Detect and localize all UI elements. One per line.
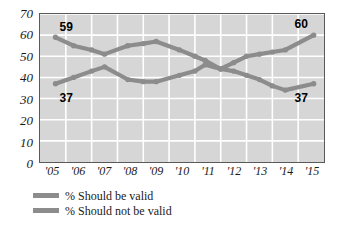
data-point <box>71 43 76 48</box>
series-line-0 <box>55 37 313 90</box>
data-point <box>231 68 236 73</box>
data-point <box>257 77 262 82</box>
y-tick-label: 40 <box>20 71 33 84</box>
x-tick-label: '07 <box>97 165 112 177</box>
data-point <box>177 73 182 78</box>
data-point <box>231 60 236 65</box>
y-tick-label: 60 <box>20 28 33 41</box>
value-label-end-valid: 60 <box>295 18 308 30</box>
y-tick-label: 70 <box>20 7 33 20</box>
x-tick-label: '09 <box>149 165 164 177</box>
value-label-start-valid: 37 <box>60 92 73 104</box>
data-point <box>257 52 262 57</box>
x-tick-label: '08 <box>123 165 138 177</box>
chart-figure: 010203040506070 59603737 '05'06'07'08'09… <box>0 0 340 234</box>
data-point <box>102 64 107 69</box>
x-tick-label: '12 <box>227 165 242 177</box>
x-tick-label: '06 <box>71 165 86 177</box>
data-point <box>89 47 94 52</box>
data-point <box>89 68 94 73</box>
data-point <box>71 75 76 80</box>
data-point <box>203 62 208 67</box>
x-tick-label: '05 <box>45 165 60 177</box>
data-point <box>177 47 182 52</box>
data-point <box>141 79 146 84</box>
data-point <box>270 49 275 54</box>
data-point <box>283 87 288 92</box>
data-point <box>102 52 107 57</box>
chart-legend: % Should be valid% Should not be valid <box>33 188 172 218</box>
value-label-end-not-valid: 37 <box>295 92 308 104</box>
x-tick-label: '14 <box>279 165 294 177</box>
data-point <box>192 68 197 73</box>
x-tick-label: '11 <box>201 165 215 177</box>
x-axis: '05'06'07'08'09'10'11'12'13'14'15 <box>39 165 325 183</box>
legend-swatch-icon <box>33 208 59 213</box>
x-tick-label: '15 <box>305 165 320 177</box>
x-tick-label: '10 <box>175 165 190 177</box>
data-point <box>53 35 58 40</box>
data-point <box>218 66 223 71</box>
data-point <box>53 81 58 86</box>
x-tick-label: '13 <box>253 165 268 177</box>
data-point <box>141 41 146 46</box>
series-lines <box>40 14 324 162</box>
data-point <box>154 79 159 84</box>
legend-label: % Should be valid <box>65 190 153 202</box>
y-tick-label: 10 <box>20 135 33 148</box>
legend-swatch-icon <box>33 193 59 198</box>
y-axis: 010203040506070 <box>0 13 36 163</box>
data-point <box>192 54 197 59</box>
y-tick-label: 50 <box>20 49 33 62</box>
legend-item-1: % Should not be valid <box>33 203 172 218</box>
data-point <box>125 77 130 82</box>
y-tick-label: 0 <box>27 157 34 170</box>
data-point <box>154 39 159 44</box>
data-point <box>270 83 275 88</box>
data-point <box>311 32 316 37</box>
data-point <box>311 81 316 86</box>
plot-area <box>39 13 325 163</box>
legend-label: % Should not be valid <box>65 205 172 217</box>
data-point <box>125 43 130 48</box>
data-point <box>283 47 288 52</box>
legend-item-0: % Should be valid <box>33 188 172 203</box>
data-point <box>244 73 249 78</box>
y-tick-label: 20 <box>20 114 33 127</box>
y-tick-label: 30 <box>20 92 33 105</box>
series-line-1 <box>55 35 313 84</box>
value-label-start-not-valid: 59 <box>60 21 73 33</box>
data-point <box>244 54 249 59</box>
